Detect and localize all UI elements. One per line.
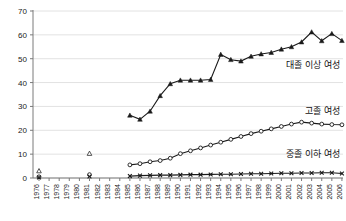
x-tick-label: 1986 (134, 184, 141, 200)
x-tick-label: 1995 (225, 184, 232, 200)
data-point-circle (158, 159, 162, 163)
x-tick-label: 1978 (53, 184, 60, 200)
x-tick-label: 2003 (306, 184, 313, 200)
x-tick-label: 2005 (326, 184, 333, 200)
series-labels-group: 대졸 이상 여성고졸 여성중졸 이하 여성 (286, 59, 340, 158)
y-tick-label: 70 (18, 7, 27, 16)
data-point-circle (138, 162, 142, 166)
data-point-triangle (218, 52, 223, 56)
x-tick-label: 1988 (154, 184, 161, 200)
x-tick-label: 2000 (275, 184, 282, 200)
x-tick-label: 1999 (265, 184, 272, 200)
x-tick-label: 1993 (205, 184, 212, 200)
x-tick-label: 1994 (215, 184, 222, 200)
series-label-1: 고졸 여성 (305, 105, 340, 116)
data-point-triangle (309, 30, 314, 34)
data-point-triangle (128, 113, 133, 117)
line-chart: 010203040506070 197619771978197919801981… (0, 0, 346, 221)
data-point-triangle (87, 151, 92, 155)
data-point-circle (148, 160, 152, 164)
y-tick-label: 0 (23, 174, 28, 183)
y-tick-label: 40 (18, 79, 27, 88)
series-label-2: 중졸 이하 여성 (286, 148, 340, 159)
data-point-circle (269, 127, 273, 131)
x-tick-label: 1997 (245, 184, 252, 200)
data-point-circle (259, 129, 263, 133)
x-tick-label: 2004 (316, 184, 323, 200)
chart-container: 010203040506070 197619771978197919801981… (0, 0, 346, 221)
data-point-triangle (37, 169, 42, 173)
y-tick-label: 30 (18, 102, 27, 111)
x-tick-label: 1987 (144, 184, 151, 200)
x-tick-label: 2006 (336, 184, 343, 200)
x-tick-label: 2002 (296, 184, 303, 200)
x-tick-label: 1991 (184, 184, 191, 200)
x-tick-label: 1976 (33, 184, 40, 200)
data-point-circle (209, 143, 213, 147)
y-tick-label: 20 (18, 126, 27, 135)
x-tick-label: 1981 (83, 184, 90, 200)
x-tick-label: 1985 (124, 184, 131, 200)
x-tick-label: 1992 (195, 184, 202, 200)
x-tick-label: 1998 (255, 184, 262, 200)
data-point-circle (330, 123, 334, 127)
data-point-circle (178, 152, 182, 156)
x-tick-label: 1990 (174, 184, 181, 200)
y-tick-label: 10 (18, 150, 27, 159)
data-point-circle (189, 149, 193, 153)
data-point-circle (300, 120, 304, 124)
data-point-circle (340, 123, 344, 127)
data-point-circle (249, 132, 253, 136)
x-tick-label: 1977 (43, 184, 50, 200)
y-tick-label: 50 (18, 55, 27, 64)
x-axis-ticks: 1976197719781979198019811982198319841985… (33, 178, 343, 200)
series-label-0: 대졸 이상 여성 (286, 59, 340, 70)
data-point-circle (310, 121, 314, 125)
x-tick-label: 2001 (285, 184, 292, 200)
x-tick-label: 1980 (73, 184, 80, 200)
data-point-circle (168, 156, 172, 160)
x-tick-label: 1984 (114, 184, 121, 200)
data-point-circle (279, 125, 283, 129)
data-point-circle (239, 135, 243, 139)
y-axis-ticks: 010203040506070 (18, 7, 33, 183)
data-point-circle (199, 146, 203, 150)
data-point-circle (320, 122, 324, 126)
x-tick-label: 1989 (164, 184, 171, 200)
data-point-circle (128, 163, 132, 167)
data-point-circle (229, 137, 233, 141)
x-tick-label: 1983 (104, 184, 111, 200)
x-tick-label: 1979 (63, 184, 70, 200)
data-point-triangle (330, 31, 335, 35)
y-tick-label: 60 (18, 31, 27, 40)
data-point-circle (290, 122, 294, 126)
x-tick-label: 1982 (94, 184, 101, 200)
x-tick-label: 1996 (235, 184, 242, 200)
data-point-circle (219, 140, 223, 144)
